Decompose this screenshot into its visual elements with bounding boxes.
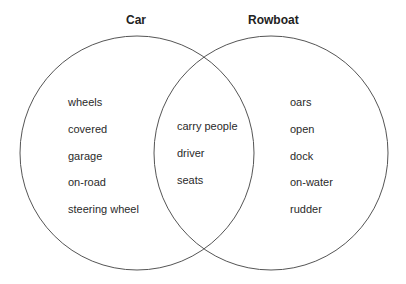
rowboat-item: rudder xyxy=(290,203,322,215)
shared-item: driver xyxy=(177,147,205,159)
car-item: on-road xyxy=(68,176,106,188)
rowboat-item: dock xyxy=(290,150,313,162)
venn-circles xyxy=(0,0,406,284)
car-item: covered xyxy=(68,123,107,135)
car-item: wheels xyxy=(68,96,102,108)
car-item: garage xyxy=(68,150,102,162)
car-item: steering wheel xyxy=(68,203,139,215)
rowboat-item: on-water xyxy=(290,176,333,188)
rowboat-title: Rowboat xyxy=(248,13,299,27)
rowboat-item: open xyxy=(290,123,314,135)
shared-item: seats xyxy=(177,174,203,186)
car-title: Car xyxy=(126,13,146,27)
car-circle xyxy=(20,36,254,270)
rowboat-item: oars xyxy=(290,96,311,108)
shared-item: carry people xyxy=(177,120,238,132)
